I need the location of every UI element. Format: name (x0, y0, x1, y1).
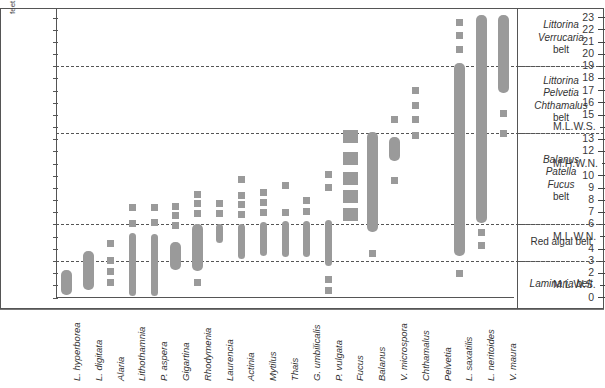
zone-separator (518, 66, 604, 67)
species-occurrence-mark (238, 176, 245, 183)
species-occurrence-mark (282, 209, 289, 216)
species-occurrence-mark (282, 182, 289, 189)
species-occurrence-mark (107, 279, 114, 286)
zone-label-box: LittorinaVerrucariabelt (518, 10, 604, 66)
species-occurrence-mark (343, 208, 358, 221)
x-axis-label: Pelvetia (442, 347, 453, 381)
species-range-bar (83, 251, 94, 290)
x-axis-label: Thais (289, 358, 300, 381)
x-axis-line (56, 297, 514, 298)
species-occurrence-mark (456, 19, 463, 26)
species-occurrence-mark (325, 287, 332, 294)
x-axis-label: L. hyperborea (71, 322, 82, 381)
species-occurrence-mark (478, 242, 485, 249)
x-axis-label: Mytilus (267, 351, 278, 381)
species-occurrence-mark (107, 268, 114, 275)
species-occurrence-mark (456, 270, 463, 277)
zone-separator (518, 133, 604, 134)
x-axis-label: L. neritoides (485, 329, 496, 381)
zonation-chart: feet 232221201918171615M.L.W.S.1312M.H.W… (0, 0, 605, 388)
species-occurrence-mark (194, 200, 201, 207)
zone-label-box: Red algal belt (518, 224, 604, 261)
species-occurrence-mark (456, 32, 463, 39)
zone-separator (518, 261, 604, 262)
species-occurrence-mark (238, 192, 245, 199)
zone-label-box: Laminaria belt (518, 261, 604, 307)
x-axis-label: Fucus (354, 355, 365, 381)
species-occurrence-mark (412, 87, 419, 94)
x-axis-label: Actinia (245, 352, 256, 381)
species-occurrence-mark (343, 190, 358, 203)
x-axis-label: Rhodymenia (202, 328, 213, 381)
species-range-bar (129, 233, 136, 296)
species-occurrence-mark (391, 116, 398, 123)
zone-label-text: LittorinaVerrucariabelt (538, 19, 584, 57)
species-occurrence-mark (500, 110, 507, 117)
species-occurrence-mark (151, 204, 158, 211)
species-range-bar (454, 63, 465, 257)
species-occurrence-mark (478, 229, 485, 236)
species-occurrence-mark (343, 130, 358, 143)
species-occurrence-mark (216, 210, 223, 217)
x-axis-label: P. aspera (158, 342, 169, 381)
x-axis-label: L. digitata (93, 340, 104, 381)
species-occurrence-mark (107, 240, 114, 247)
zone-label-box: BalanusPatellaFucusbelt (518, 133, 604, 224)
species-occurrence-mark (325, 171, 332, 178)
species-occurrence-mark (303, 197, 310, 204)
species-occurrence-mark (343, 152, 358, 165)
y-tick-mark (53, 298, 58, 299)
x-axis-label: Alaria (115, 357, 126, 381)
species-occurrence-mark (194, 210, 201, 217)
zone-label-box: LittorinaPelvetiaChthamalusbelt (518, 66, 604, 133)
species-occurrence-mark (129, 204, 136, 211)
species-range-bar (367, 132, 378, 232)
species-range-bar (476, 15, 487, 223)
x-axis-label: V. maura (507, 343, 518, 381)
species-occurrence-mark (172, 222, 179, 229)
species-occurrence-mark (107, 257, 114, 264)
species-range-bar (260, 222, 267, 256)
species-occurrence-mark (369, 250, 376, 257)
species-range-bar (192, 224, 203, 270)
x-axis-label: Lithothamnia (136, 327, 147, 381)
species-occurrence-mark (391, 177, 398, 184)
species-occurrence-mark (325, 184, 332, 191)
plot-area (56, 9, 514, 297)
species-range-bar (170, 242, 181, 270)
zone-label-text: BalanusPatellaFucusbelt (543, 154, 579, 204)
species-occurrence-mark (216, 200, 223, 207)
species-occurrence-mark (325, 276, 332, 283)
species-occurrence-mark (412, 102, 419, 109)
species-occurrence-mark (194, 279, 201, 286)
species-occurrence-mark (260, 199, 267, 206)
x-axis-label: V. microspora (398, 323, 409, 381)
species-occurrence-mark (172, 212, 179, 219)
species-range-bar (498, 15, 509, 93)
species-occurrence-mark (343, 172, 358, 185)
species-occurrence-mark (238, 201, 245, 208)
zone-separator (518, 224, 604, 225)
species-occurrence-mark (151, 219, 158, 226)
x-axis-label: Balanus (376, 347, 387, 381)
x-axis-labels: L. hyperboreaL. digitataAlariaLithothamn… (0, 309, 604, 388)
species-range-bar (238, 224, 245, 258)
species-occurrence-mark (260, 209, 267, 216)
x-axis-label: Chthamalus (420, 330, 431, 381)
zone-label-text: LittorinaPelvetiaChthamalusbelt (534, 75, 587, 125)
species-range-bar (303, 221, 310, 258)
x-axis-label: Gigartina (180, 342, 191, 381)
zone-label-text: Red algal belt (530, 236, 591, 249)
x-axis-label: Laurencia (224, 339, 235, 381)
species-range-bar (151, 234, 158, 296)
species-range-bar (325, 220, 332, 266)
species-occurrence-mark (194, 191, 201, 198)
species-occurrence-mark (260, 189, 267, 196)
zone-label-text: Laminaria belt (530, 278, 593, 291)
species-occurrence-mark (129, 220, 136, 227)
species-range-bar (216, 224, 223, 242)
species-occurrence-mark (238, 211, 245, 218)
x-axis-label: P. vulgata (333, 340, 344, 381)
species-occurrence-mark (456, 46, 463, 53)
species-range-bar (389, 137, 400, 161)
